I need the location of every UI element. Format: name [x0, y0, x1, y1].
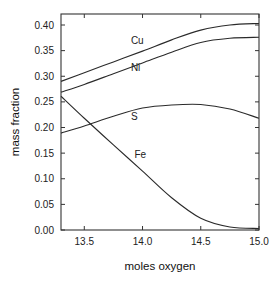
y-tick-label: 0.40 — [35, 20, 55, 31]
series-line-fe — [61, 96, 259, 228]
y-tick-label: 0.20 — [35, 122, 55, 133]
x-axis-title: moles oxygen — [125, 260, 196, 272]
line-chart: 0.000.050.100.150.200.250.300.350.40 13.… — [0, 0, 279, 284]
x-tick-label: 15.0 — [249, 236, 269, 247]
y-tick-label: 0.10 — [35, 173, 55, 184]
series-line-s — [61, 104, 259, 133]
series-label-fe: Fe — [134, 149, 146, 160]
plot-frame — [61, 14, 259, 230]
y-tick-label: 0.25 — [35, 96, 55, 107]
series-label-cu: Cu — [131, 35, 144, 46]
y-tick-label: 0.30 — [35, 71, 55, 82]
y-tick-label: 0.35 — [35, 45, 55, 56]
x-tick-label: 14.5 — [191, 236, 211, 247]
y-tick-label: 0.05 — [35, 199, 55, 210]
y-axis-ticks: 0.000.050.100.150.200.250.300.350.40 — [35, 20, 259, 236]
series-curves — [61, 23, 259, 228]
x-tick-label: 13.5 — [75, 236, 95, 247]
series-line-ni — [61, 37, 259, 92]
series-line-cu — [61, 23, 259, 81]
x-axis-ticks: 13.514.014.515.0 — [75, 14, 270, 247]
series-labels: CuNiSFe — [131, 35, 147, 160]
y-tick-label: 0.00 — [35, 225, 55, 236]
x-tick-label: 14.0 — [133, 236, 153, 247]
series-label-ni: Ni — [131, 62, 140, 73]
series-label-s: S — [131, 111, 138, 122]
y-tick-label: 0.15 — [35, 148, 55, 159]
y-axis-title: mass fraction — [9, 88, 21, 156]
